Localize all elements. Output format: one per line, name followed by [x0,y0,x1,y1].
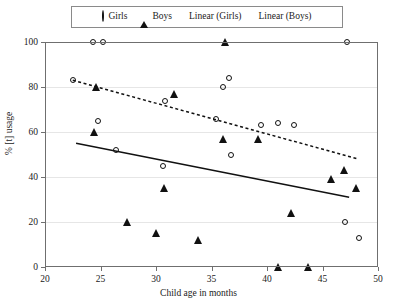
x-tick-mark [323,267,324,271]
y-tick-label: 80 [29,82,39,92]
filled-triangle-marker-icon [140,12,148,22]
legend-item-boys: Boys [140,12,172,22]
legend-label-girls: Girls [108,12,127,22]
data-point-boys [304,263,312,271]
x-tick-label: 40 [262,274,272,284]
data-point-girls [95,118,101,124]
data-point-girls [162,98,168,104]
legend-label-linear-boys: Linear (Boys) [259,12,312,22]
plot-area: 020406080100 20253035404550 [45,42,378,267]
y-tick-label: 20 [29,217,39,227]
x-tick-label: 45 [318,274,328,284]
data-point-girls [344,39,350,45]
data-point-girls [356,235,362,241]
x-tick-mark [212,267,213,271]
data-point-girls [226,75,232,81]
legend-item-girls: Girls [102,12,127,22]
x-tick-mark [45,267,46,271]
data-point-boys [327,175,335,183]
data-point-boys [352,184,360,192]
data-point-girls [342,219,348,225]
data-point-girls [100,39,106,45]
data-point-boys [170,90,178,98]
x-tick-label: 25 [96,274,106,284]
data-point-boys [123,218,131,226]
trendline-layer [45,42,378,267]
data-point-girls [220,84,226,90]
data-point-boys [160,184,168,192]
data-point-girls [90,39,96,45]
open-circle-marker-icon [102,12,104,22]
x-tick-mark [378,267,379,271]
data-point-boys [274,263,282,271]
legend-label-linear-girls: Linear (Girls) [189,12,242,22]
scatter-plot-figure: Girls Boys Linear (Girls) Linear (Boys) … [0,0,397,308]
x-tick-label: 35 [207,274,217,284]
data-point-boys [152,229,160,237]
chart-legend: Girls Boys Linear (Girls) Linear (Boys) [71,6,343,28]
data-point-boys [254,135,262,143]
data-point-girls [160,163,166,169]
x-tick-label: 20 [40,274,50,284]
data-point-boys [221,38,229,46]
y-tick-label: 60 [29,127,39,137]
y-tick-label: 40 [29,172,39,182]
data-point-girls [228,152,234,158]
data-point-boys [287,209,295,217]
y-tick-label: 100 [24,37,38,47]
data-point-boys [194,236,202,244]
x-tick-mark [101,267,102,271]
data-point-girls [258,122,264,128]
legend-label-boys: Boys [152,12,172,22]
data-point-boys [340,166,348,174]
x-tick-label: 50 [373,274,383,284]
x-tick-mark [156,267,157,271]
data-point-girls [275,120,281,126]
data-point-girls [291,122,297,128]
y-tick-label: 0 [33,262,38,272]
data-point-boys [219,135,227,143]
data-point-girls [70,77,76,83]
data-point-boys [92,83,100,91]
legend-item-linear-girls: Linear (Girls) [185,12,242,22]
x-tick-mark [267,267,268,271]
x-axis-label: Child age in months [0,288,397,298]
legend-item-linear-boys: Linear (Boys) [255,12,312,22]
x-tick-label: 30 [151,274,161,284]
data-point-girls [213,116,219,122]
data-point-boys [90,128,98,136]
y-axis-label: % [t] usage [4,112,14,155]
data-point-girls [113,147,119,153]
